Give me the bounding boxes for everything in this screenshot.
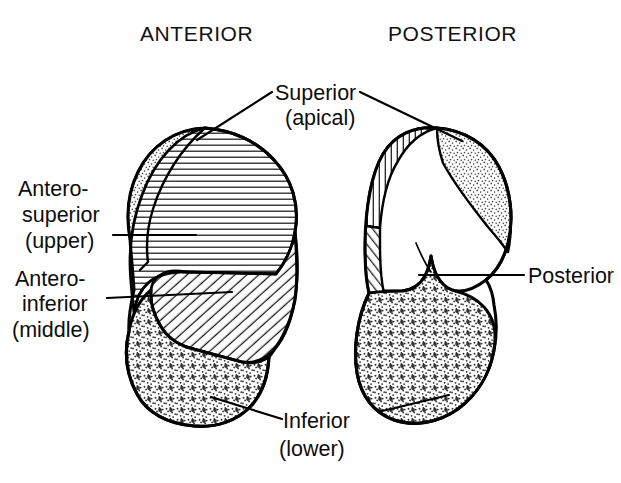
label-antero-inferior-line2: inferior — [22, 292, 88, 316]
label-posterior: Posterior — [528, 264, 614, 288]
label-antero-inferior-line3: (middle) — [12, 318, 90, 342]
heading-posterior: POSTERIOR — [388, 22, 517, 45]
label-antero-superior-line3: (upper) — [25, 229, 94, 253]
anterior-lung-view — [126, 128, 297, 426]
label-inferior-line1: Inferior — [283, 409, 350, 433]
label-inferior-line2: (lower) — [279, 437, 345, 461]
label-superior-line1: Superior — [275, 81, 356, 105]
lung-segments-figure: ANTERIOR POSTERIOR — [0, 0, 621, 483]
diagram-page: ANTERIOR POSTERIOR — [0, 0, 621, 483]
label-antero-superior-line1: Antero- — [18, 177, 89, 201]
label-antero-inferior-line1: Antero- — [15, 267, 86, 291]
label-antero-superior-line2: superior — [22, 203, 100, 227]
heading-anterior: ANTERIOR — [140, 22, 253, 45]
label-superior-line2: (apical) — [285, 106, 356, 130]
